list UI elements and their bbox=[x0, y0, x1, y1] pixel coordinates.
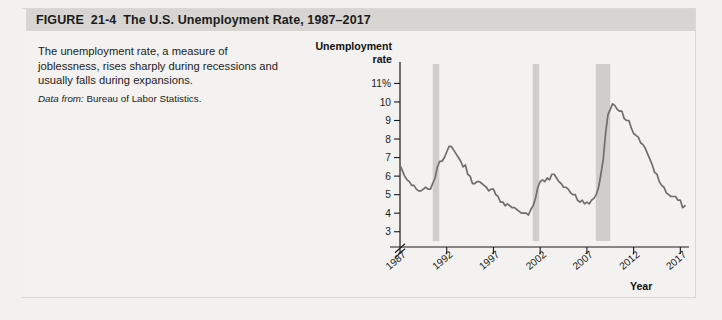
source-text: Bureau of Labor Statistics. bbox=[86, 93, 201, 104]
y-tick-label: 9 bbox=[385, 115, 391, 126]
x-tick-label: 2007 bbox=[570, 249, 595, 272]
x-tick-label: 2012 bbox=[617, 249, 642, 272]
y-tick-label: 6 bbox=[385, 171, 391, 182]
y-tick-label: 5 bbox=[385, 189, 391, 200]
caption-source: Data from: Bureau of Labor Statistics. bbox=[38, 93, 288, 104]
y-tick-label: 8 bbox=[385, 134, 391, 145]
caption-text: The unemployment rate, a measure of jobl… bbox=[38, 44, 288, 88]
figure-caption: The unemployment rate, a measure of jobl… bbox=[38, 44, 288, 104]
y-tick-label: 7 bbox=[385, 152, 391, 163]
figure-number: 21-4 bbox=[91, 13, 116, 27]
recession-band bbox=[596, 64, 610, 241]
y-tick-label: 3 bbox=[385, 226, 391, 237]
y-tick-label: 11% bbox=[371, 78, 391, 89]
source-prefix: Data from: bbox=[38, 93, 84, 104]
x-tick-label: 2017 bbox=[664, 249, 689, 272]
figure-header-bar: FIGURE21-4The U.S. Unemployment Rate, 19… bbox=[26, 9, 695, 31]
unemployment-line-chart: 11%1098765431987199219972002200720122017 bbox=[300, 36, 695, 291]
x-tick-label: 1987 bbox=[384, 249, 409, 272]
x-tick-label: 1997 bbox=[477, 249, 502, 272]
y-tick-label: 4 bbox=[385, 208, 391, 219]
recession-band bbox=[433, 64, 440, 241]
figure-root: FIGURE21-4The U.S. Unemployment Rate, 19… bbox=[0, 0, 722, 320]
recession-band bbox=[533, 64, 540, 241]
chart-container: Unemployment rate Year 11%10987654319871… bbox=[300, 36, 695, 291]
data-line-unemployment-rate bbox=[400, 104, 685, 215]
x-tick-label: 1992 bbox=[430, 249, 455, 272]
page-title: The U.S. Unemployment Rate, 1987–2017 bbox=[123, 13, 371, 27]
figure-number-label: FIGURE bbox=[36, 13, 84, 27]
x-tick-label: 2002 bbox=[524, 249, 549, 272]
y-tick-label: 10 bbox=[380, 97, 392, 108]
figure-header-text: FIGURE21-4The U.S. Unemployment Rate, 19… bbox=[36, 13, 371, 27]
